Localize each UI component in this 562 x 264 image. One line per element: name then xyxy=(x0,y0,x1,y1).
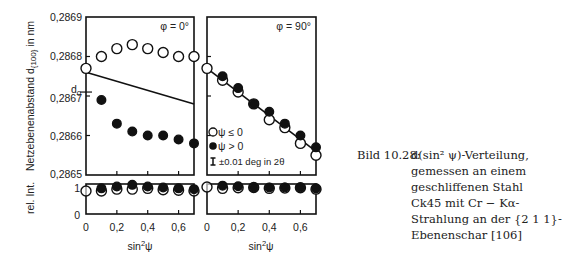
filled-circle-marker xyxy=(159,131,168,140)
legend-filled-circle-icon xyxy=(209,142,217,150)
ytick-label: 0,2868 xyxy=(50,50,82,62)
xtick-label: 0,6 xyxy=(293,221,308,233)
legend-open: ψ ≤ 0 xyxy=(218,126,243,138)
caption-line: gemessen an einem xyxy=(411,163,541,179)
filled-circle-marker xyxy=(249,183,258,192)
open-circle-marker xyxy=(112,44,122,54)
open-circle-marker xyxy=(202,182,212,192)
caption-line: Ck45 mit Cr − Kα- xyxy=(411,195,541,211)
filled-circle-marker xyxy=(190,185,199,194)
ytick-label: 0,2865 xyxy=(50,168,82,180)
xtick-label: 0,4 xyxy=(140,221,155,233)
y-axis-label-int: rel. Int. xyxy=(24,182,36,214)
filled-circle-marker xyxy=(128,127,137,136)
xtick-label: 0,6 xyxy=(171,221,186,233)
filled-circle-marker xyxy=(113,182,122,191)
filled-circle-marker xyxy=(143,131,152,140)
legend-error: ±0.01 deg in 2θ xyxy=(219,156,284,167)
filled-circle-marker xyxy=(190,139,199,148)
xtick-label: 0,2 xyxy=(231,221,246,233)
open-circle-marker xyxy=(96,52,106,62)
filled-circle-marker xyxy=(296,131,305,140)
filled-circle-marker xyxy=(113,119,122,128)
filled-circle-marker xyxy=(281,183,290,192)
filled-circle-marker xyxy=(249,100,258,109)
open-circle-marker xyxy=(81,186,91,196)
int-tick-0: 0 xyxy=(74,209,80,221)
filled-circle-marker xyxy=(218,181,227,190)
filled-circle-marker xyxy=(296,183,305,192)
caption-line: d(sin² ψ)-Verteilung, xyxy=(411,147,541,163)
filled-circle-marker xyxy=(159,183,168,192)
filled-circle-marker xyxy=(174,184,183,193)
xtick-label: 0 xyxy=(204,221,210,233)
open-circle-marker xyxy=(143,44,153,54)
filled-circle-marker xyxy=(174,135,183,144)
y-axis-label: Netzebenenabstand d{100} in nm xyxy=(24,21,38,171)
open-circle-marker xyxy=(202,63,212,73)
panel-title-phi90: φ = 90° xyxy=(276,20,311,32)
filled-circle-marker xyxy=(312,143,321,152)
caption-line: Ebenenschar [106] xyxy=(411,227,541,243)
filled-circle-marker xyxy=(97,96,106,105)
legend-filled: ψ > 0 xyxy=(218,140,243,152)
filled-circle-marker xyxy=(265,183,274,192)
panel-title-phi0: φ = 0° xyxy=(160,20,189,32)
open-circle-marker xyxy=(81,63,91,73)
xtick-label: 0,2 xyxy=(110,221,125,233)
open-circle-marker xyxy=(158,48,168,58)
x-axis-label-left: sin2ψ xyxy=(127,239,152,252)
filled-circle-marker xyxy=(128,181,137,190)
open-circle-marker xyxy=(174,52,184,62)
caption-line: geschliffenen Stahl xyxy=(411,179,541,195)
ytick-label: 0,2866 xyxy=(50,130,82,142)
filled-circle-marker xyxy=(218,72,227,81)
open-circle-marker xyxy=(127,40,137,50)
filled-circle-marker xyxy=(97,184,106,193)
filled-circle-marker xyxy=(281,119,290,128)
filled-circle-marker xyxy=(312,184,321,193)
filled-circle-marker xyxy=(234,84,243,93)
x-axis-label-right: sin2ψ xyxy=(248,239,273,252)
filled-circle-marker xyxy=(143,182,152,191)
filled-circle-marker xyxy=(234,182,243,191)
xtick-label: 0 xyxy=(83,221,89,233)
ytick-label: 0,2869 xyxy=(50,11,82,23)
legend-open-circle-icon xyxy=(209,128,217,136)
filled-circle-marker xyxy=(265,108,274,117)
caption-line: Strahlung an der {2 1 1}- xyxy=(411,211,541,227)
open-circle-marker xyxy=(189,52,199,62)
int-tick-1: 1 xyxy=(74,182,80,194)
xtick-label: 0,4 xyxy=(262,221,277,233)
